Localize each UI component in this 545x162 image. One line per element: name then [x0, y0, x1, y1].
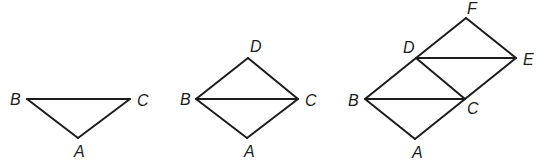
- vertex-label-a: A: [411, 144, 423, 161]
- segment-fe: [466, 18, 516, 58]
- segment-dc: [416, 58, 465, 99]
- segment-ba: [196, 99, 247, 138]
- segment-ca: [247, 99, 298, 138]
- geometry-diagram: ABC ABCD ABCDEF: [0, 0, 545, 162]
- segment-dc: [248, 58, 298, 99]
- vertex-label-f: F: [467, 0, 478, 17]
- vertex-label-b: B: [348, 92, 359, 109]
- segment-bd: [365, 58, 416, 99]
- vertex-label-c: C: [137, 92, 149, 109]
- figure-triangle-abc: ABC: [10, 91, 149, 160]
- segment-df: [416, 18, 466, 58]
- segment-ac: [415, 99, 465, 139]
- vertex-label-c: C: [467, 100, 479, 117]
- segment-ba: [365, 99, 415, 139]
- vertex-label-d: D: [250, 38, 262, 55]
- segment-ca: [78, 99, 130, 138]
- figure-rhombus-abdc: ABCD: [180, 38, 317, 160]
- figure-parallelogram-abcdef: ABCDEF: [348, 0, 534, 161]
- vertex-label-a: A: [73, 143, 85, 160]
- segment-ce: [465, 58, 516, 99]
- segment-bd: [196, 58, 248, 99]
- vertex-label-b: B: [10, 91, 21, 108]
- vertex-label-e: E: [523, 51, 534, 68]
- vertex-label-b: B: [180, 91, 191, 108]
- vertex-label-c: C: [305, 92, 317, 109]
- vertex-label-d: D: [403, 39, 415, 56]
- vertex-label-a: A: [243, 143, 255, 160]
- segment-ba: [27, 99, 78, 138]
